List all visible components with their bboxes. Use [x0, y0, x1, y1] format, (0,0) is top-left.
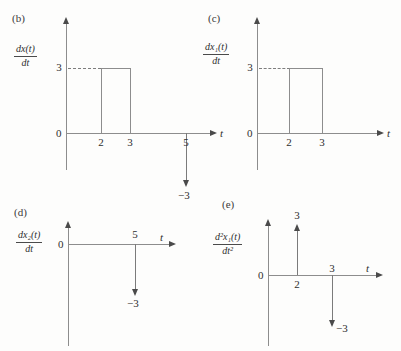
impulse-stem-d — [135, 244, 136, 290]
y-axis-title-numerator-c: dx₁(t) — [203, 42, 229, 55]
y-axis-title-d: dx₂(t) dt — [16, 230, 42, 254]
origin-label-c: 0 — [247, 127, 253, 139]
origin-label-e: 0 — [258, 269, 264, 281]
x-axis-c — [257, 133, 379, 134]
impulse-value-label-up-e: 3 — [292, 209, 302, 221]
x-axis-label-d: t — [160, 231, 163, 243]
dashed-guide-b — [68, 68, 101, 69]
origin-label-d: 0 — [58, 238, 64, 250]
pulse-rise-edge-c — [289, 68, 290, 133]
y-tick-3-b: 3 — [54, 61, 64, 73]
impulse-arrow-up-icon-e — [294, 224, 300, 231]
pulse-rise-edge-b — [101, 68, 102, 133]
y-axis-title-denominator-e: dt² — [213, 245, 242, 257]
origin-label-b: 0 — [56, 127, 62, 139]
y-axis-title-denominator-b: dt — [14, 57, 37, 69]
y-axis-title-numerator-b: dx(t) — [14, 44, 37, 57]
x-axis-e — [268, 275, 378, 276]
pulse-top-b — [101, 68, 131, 69]
y-tick-3-c: 3 — [245, 61, 255, 73]
dashed-guide-c — [259, 68, 290, 69]
y-axis-title-e: d²x₁(t) dt² — [213, 232, 242, 256]
y-axis-title-denominator-c: dt — [203, 55, 229, 67]
impulse-arrow-icon-b — [183, 180, 189, 187]
y-axis-arrow-icon-c — [254, 17, 260, 24]
x-tick-2-b: 2 — [96, 136, 106, 148]
pulse-fall-edge-b — [130, 68, 131, 133]
x-tick-3-b: 3 — [125, 136, 135, 148]
panel-letter-b: (b) — [12, 12, 25, 24]
derivative-plots-figure: (b) t −3 0 3 2 3 5 dx(t) dt (c) — [0, 0, 401, 351]
x-tick-5-b: 5 — [181, 136, 191, 148]
y-axis-c — [257, 22, 258, 170]
y-axis-e — [268, 224, 269, 346]
x-tick-5-d: 5 — [130, 228, 140, 240]
x-tick-2-e: 2 — [292, 278, 302, 290]
x-axis-label-c: t — [387, 127, 390, 139]
panel-letter-c: (c) — [208, 12, 220, 24]
pulse-top-c — [289, 68, 323, 69]
y-axis-title-numerator-d: dx₂(t) — [16, 230, 42, 243]
x-axis-arrow-icon-c — [377, 130, 384, 136]
impulse-value-label-down-e: −3 — [336, 322, 348, 334]
y-axis-title-numerator-e: d²x₁(t) — [213, 232, 242, 245]
y-axis-arrow-icon-b — [63, 17, 69, 24]
y-axis-title-b: dx(t) dt — [14, 44, 37, 68]
x-axis-label-e: t — [366, 262, 369, 274]
impulse-stem-down-e — [332, 275, 333, 321]
x-axis-arrow-icon-d — [169, 241, 176, 247]
x-axis-arrow-icon-b — [210, 130, 217, 136]
impulse-arrow-icon-d — [132, 289, 138, 296]
panel-letter-d: (d) — [14, 206, 27, 218]
x-axis-b — [66, 133, 212, 134]
x-tick-3-c: 3 — [317, 136, 327, 148]
x-axis-label-b: t — [220, 127, 223, 139]
x-tick-2-c: 2 — [284, 136, 294, 148]
impulse-value-label-b: −3 — [178, 189, 190, 201]
x-axis-d — [68, 244, 171, 245]
x-tick-3-e: 3 — [327, 262, 337, 274]
impulse-arrow-down-icon-e — [329, 320, 335, 327]
panel-letter-e: (e) — [222, 198, 234, 210]
y-axis-arrow-icon-e — [265, 219, 271, 226]
y-axis-b — [66, 22, 67, 170]
y-axis-title-c: dx₁(t) dt — [203, 42, 229, 66]
y-axis-arrow-icon-d — [65, 221, 71, 228]
y-axis-title-denominator-d: dt — [16, 243, 42, 255]
impulse-stem-up-e — [297, 229, 298, 275]
x-axis-arrow-icon-e — [376, 272, 383, 278]
pulse-fall-edge-c — [322, 68, 323, 133]
impulse-value-label-d: −3 — [127, 297, 139, 309]
